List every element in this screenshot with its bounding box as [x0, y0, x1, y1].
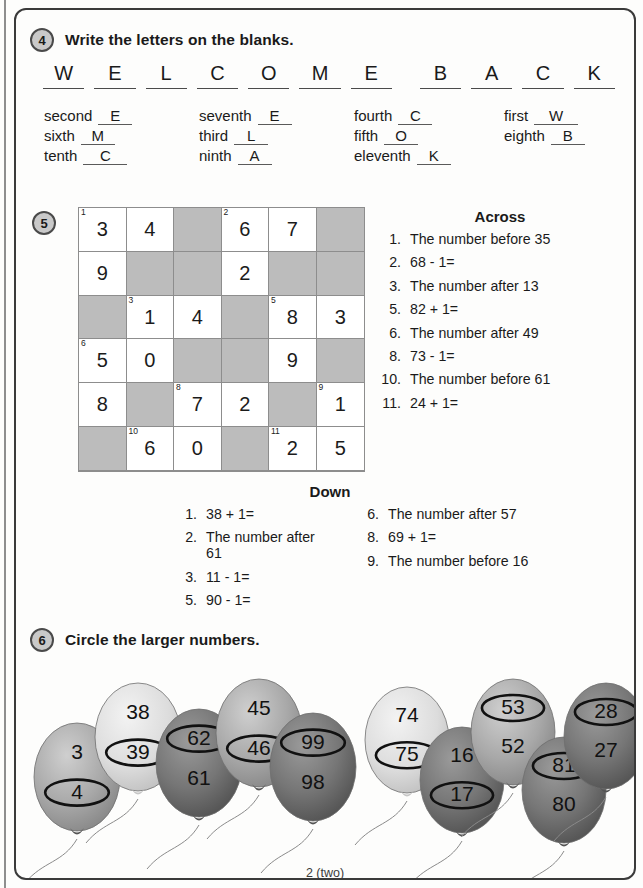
- balloon-number-top: 45: [247, 696, 270, 719]
- grid-cell[interactable]: 31: [127, 296, 175, 340]
- grid-cell[interactable]: 0: [174, 427, 222, 471]
- clue-text: 69 + 1=: [388, 530, 436, 546]
- grid-cell[interactable]: 26: [222, 208, 270, 252]
- letter-blank-9[interactable]: A: [466, 62, 517, 91]
- grid-cell-blocked: [174, 339, 222, 383]
- letter-blank-4[interactable]: O: [243, 62, 294, 91]
- ordinal-answer[interactable]: E: [98, 107, 132, 125]
- balloon-number-bottom: 46: [247, 736, 270, 759]
- letter-blank-6[interactable]: E: [346, 62, 397, 91]
- ordinal-answer[interactable]: K: [417, 147, 451, 165]
- down-clue-list-left: 1.38 + 1=2.The number after 613.11 - 1=5…: [30, 507, 330, 617]
- ordinal-answer[interactable]: E: [258, 107, 292, 125]
- letter-blank-5[interactable]: M: [294, 62, 345, 91]
- ordinal-answer[interactable]: L: [234, 127, 268, 145]
- letter-blank-11[interactable]: K: [569, 62, 620, 91]
- ordinal-word: eighth: [504, 127, 545, 144]
- grid-cell-value: 1: [144, 306, 155, 329]
- letter-blank-8[interactable]: B: [415, 62, 466, 91]
- grid-cell[interactable]: 91: [317, 383, 365, 427]
- exercise-6-header: 6 Circle the larger numbers.: [30, 628, 260, 652]
- grid-cell[interactable]: 2: [222, 383, 270, 427]
- balloons-illustration: 34383962614546999874751617535281802827: [16, 665, 634, 880]
- grid-cell-value: 5: [97, 349, 108, 372]
- letter-value: B: [420, 62, 461, 89]
- grid-cell-number: 11: [271, 427, 280, 436]
- down-clue: 2.The number after 61: [170, 530, 330, 562]
- grid-cell[interactable]: 2: [222, 252, 270, 296]
- balloon-number-top: 38: [126, 700, 149, 723]
- ordinal-answer[interactable]: B: [551, 127, 585, 145]
- clue-text: 11 - 1=: [206, 570, 250, 586]
- letter-value: M: [299, 62, 340, 89]
- down-clue: 1.38 + 1=: [170, 507, 330, 523]
- ordinal-answer[interactable]: A: [238, 147, 272, 165]
- grid-cell[interactable]: 58: [269, 296, 317, 340]
- ordinal-answer[interactable]: M: [81, 127, 115, 145]
- ordinal-answer[interactable]: W: [534, 107, 578, 125]
- balloon-number-top: 3: [71, 740, 83, 763]
- down-clue: 8.69 + 1=: [352, 530, 630, 546]
- ordinal-word: eleventh: [354, 147, 411, 164]
- grid-cell[interactable]: 87: [174, 383, 222, 427]
- ordinal-word: first: [504, 107, 528, 124]
- grid-cell[interactable]: 8: [79, 383, 127, 427]
- letter-blank-0[interactable]: W: [38, 62, 89, 91]
- letter-value: C: [197, 62, 238, 89]
- across-clue: 10.The number before 61: [374, 372, 626, 388]
- clue-text: 82 + 1=: [410, 302, 458, 318]
- clue-text: The number after 49: [410, 326, 539, 342]
- ordinal-item-eleventh: eleventhK: [354, 147, 504, 165]
- grid-cell-number: 2: [224, 208, 229, 217]
- grid-cell[interactable]: 65: [79, 339, 127, 383]
- grid-cell[interactable]: 3: [317, 296, 365, 340]
- grid-cell[interactable]: 7: [269, 208, 317, 252]
- ordinal-word: fourth: [354, 107, 392, 124]
- grid-cell[interactable]: 0: [127, 339, 175, 383]
- balloon-string: [147, 825, 199, 869]
- letter-blank-gap: [397, 62, 415, 91]
- grid-cell-blocked: [127, 383, 175, 427]
- clue-number: 9.: [352, 554, 379, 570]
- clue-text: 68 - 1=: [410, 255, 455, 271]
- ordinal-word: second: [44, 107, 92, 124]
- clue-text: 73 - 1=: [410, 349, 455, 365]
- ordinal-answer[interactable]: C: [83, 147, 127, 165]
- welcome-back-letters: WELCOMEBACK: [38, 62, 620, 91]
- down-clue-columns: 1.38 + 1=2.The number after 613.11 - 1=5…: [30, 507, 630, 617]
- ordinal-item-second: secondE: [44, 107, 199, 125]
- letter-blank-1[interactable]: E: [89, 62, 140, 91]
- ordinal-answer[interactable]: C: [398, 107, 432, 125]
- grid-cell[interactable]: 9: [269, 339, 317, 383]
- ordinal-item-fourth: fourthC: [354, 107, 504, 125]
- grid-cell-value: 0: [192, 437, 203, 460]
- balloon-number-top: 28: [594, 699, 617, 722]
- clue-number: 11.: [374, 396, 401, 412]
- ordinal-answer[interactable]: O: [384, 127, 418, 145]
- letter-blank-3[interactable]: C: [192, 62, 243, 91]
- grid-cell[interactable]: 13: [79, 208, 127, 252]
- grid-cell[interactable]: 9: [79, 252, 127, 296]
- balloon-number-bottom: 75: [395, 742, 418, 765]
- clue-number: 6.: [374, 326, 401, 342]
- grid-cell[interactable]: 112: [269, 427, 317, 471]
- scan-edge: [4, 0, 6, 888]
- across-clue: 11.24 + 1=: [374, 396, 626, 412]
- clue-number: 5.: [374, 302, 401, 318]
- letter-blank-2[interactable]: L: [141, 62, 192, 91]
- grid-cell[interactable]: 4: [174, 296, 222, 340]
- grid-cell-value: 7: [192, 393, 203, 416]
- grid-cell[interactable]: 106: [127, 427, 175, 471]
- ordinal-item-seventh: seventhE: [199, 107, 354, 125]
- letter-blank-10[interactable]: C: [517, 62, 568, 91]
- down-heading: Down: [30, 483, 630, 500]
- grid-cell[interactable]: 5: [317, 427, 365, 471]
- across-clue: 1.The number before 35: [374, 232, 626, 248]
- grid-cell-value: 3: [335, 306, 346, 329]
- grid-cell-blocked: [317, 252, 365, 296]
- grid-cell-value: 6: [144, 437, 155, 460]
- balloon-number-bottom: 39: [126, 740, 149, 763]
- grid-cell[interactable]: 4: [127, 208, 175, 252]
- grid-cell-value: 9: [287, 349, 298, 372]
- across-clues: Across 1.The number before 352.68 - 1=3.…: [374, 208, 626, 419]
